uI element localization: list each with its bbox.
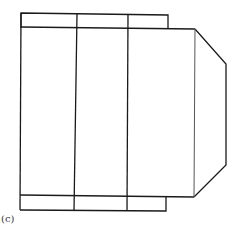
top-main-edge <box>21 27 195 29</box>
figure-label: (c) <box>1 213 14 224</box>
bottom-flap-outline <box>20 196 166 211</box>
fold-line-1 <box>74 14 77 211</box>
box-net-diagram <box>0 0 233 231</box>
right-end-flap <box>194 29 226 197</box>
top-flap-outline <box>21 13 168 29</box>
fold-line-2 <box>127 14 128 211</box>
left-edge <box>20 13 21 210</box>
right-fold-line <box>194 29 195 197</box>
bottom-main-edge <box>20 195 194 197</box>
